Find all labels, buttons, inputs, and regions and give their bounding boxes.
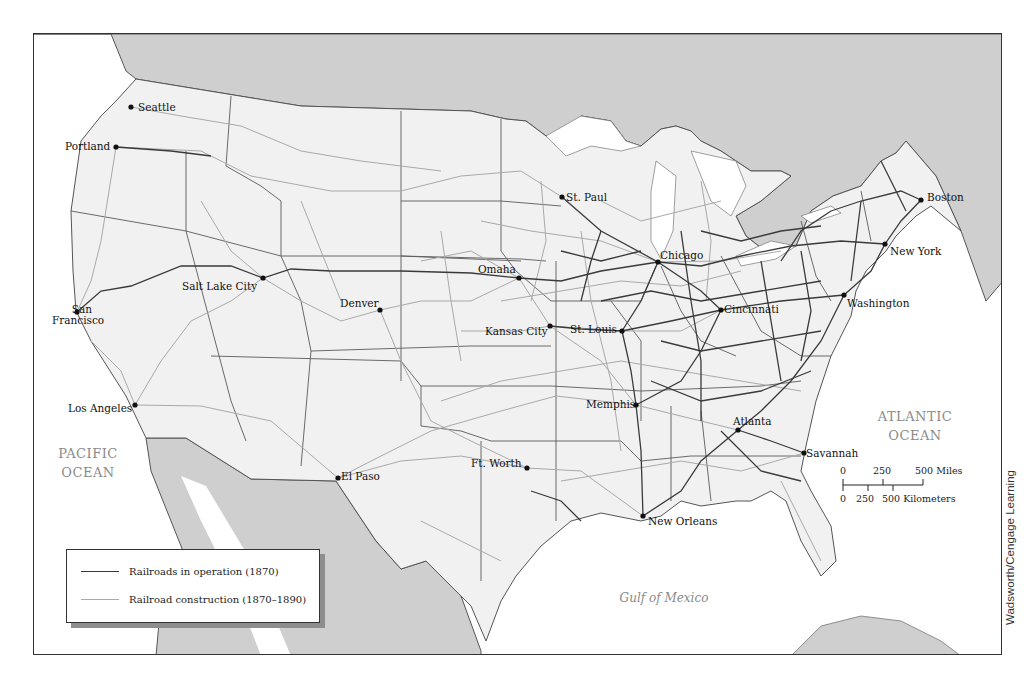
scale-bar-ruler-icon [840, 477, 930, 491]
city-label-memphis: Memphis [586, 398, 635, 410]
legend-item-1870: Railroads in operation (1870) [81, 566, 279, 577]
city-label-salt-lake-city: Salt Lake City [182, 280, 257, 292]
atlantic-ocean-label: ATLANTIC OCEAN [870, 407, 960, 445]
city-label-cincinnati: Cincinnati [724, 303, 779, 315]
cuba-landmass [791, 616, 961, 655]
city-label-ft-worth: Ft. Worth [471, 457, 522, 469]
city-label-new-york: New York [890, 245, 941, 257]
gulf-of-mexico-label: Gulf of Mexico [609, 589, 719, 608]
city-label-atlanta: Atlanta [733, 415, 771, 427]
city-label-st-louis: St. Louis [570, 323, 617, 335]
city-label-boston: Boston [927, 191, 964, 203]
city-label-new-orleans: New Orleans [648, 515, 717, 527]
light-line-swatch-icon [81, 599, 119, 600]
city-label-washington: Washington [847, 297, 909, 309]
city-label-chicago: Chicago [660, 249, 703, 261]
legend-item-1870-1890: Railroad construction (1870–1890) [81, 594, 306, 605]
city-label-savannah: Savannah [806, 447, 858, 459]
map-frame: Seattle Portland Salt Lake City San Fran… [33, 33, 1002, 655]
city-label-kansas-city: Kansas City [485, 325, 548, 337]
image-credit: Wadsworth/Cengage Learning [1004, 470, 1016, 625]
city-label-denver: Denver [340, 297, 379, 309]
city-label-san-francisco: San Francisco [52, 304, 92, 326]
city-label-st-paul: St. Paul [566, 191, 607, 203]
city-label-omaha: Omaha [478, 263, 516, 275]
city-label-seattle: Seattle [138, 101, 176, 113]
scale-bar: 0 250 500 Miles 0 250 500 Kilometers [840, 465, 980, 525]
city-label-el-paso: El Paso [341, 470, 380, 482]
city-label-los-angeles: Los Angeles [68, 402, 132, 414]
city-label-portland: Portland [65, 140, 110, 152]
dark-line-swatch-icon [81, 571, 119, 572]
pacific-ocean-label: PACIFIC OCEAN [48, 444, 128, 482]
map-legend: Railroads in operation (1870) Railroad c… [66, 549, 320, 623]
